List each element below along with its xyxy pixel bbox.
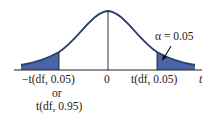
right-critical-label: t(df, 0.05)	[131, 74, 177, 86]
left-critical-alt-label: t(df, 0.95)	[36, 101, 82, 113]
axis-variable-label: t	[199, 74, 202, 86]
or-label: or	[52, 88, 62, 100]
t-distribution-figure	[0, 0, 213, 119]
alpha-label: α = 0.05	[155, 31, 193, 43]
left-critical-label: −t(df, 0.05)	[22, 74, 75, 86]
center-label: 0	[104, 74, 110, 86]
